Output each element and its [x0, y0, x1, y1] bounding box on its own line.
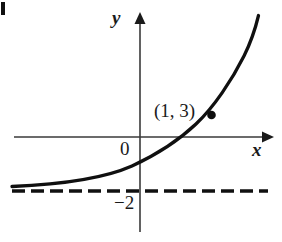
- y-axis-label: y: [112, 8, 120, 27]
- x-axis-label: x: [252, 140, 262, 159]
- asymptote-value-label: −2: [114, 193, 134, 212]
- x-axis-arrowhead: [262, 132, 274, 143]
- exponential-function-graph: y x 0 −2 (1, 3): [0, 0, 282, 242]
- exponential-curve: [12, 16, 259, 187]
- plot-canvas: [0, 0, 282, 242]
- point-coordinate-label: (1, 3): [154, 101, 195, 120]
- point-marker-1-3: [207, 111, 216, 120]
- origin-label: 0: [120, 139, 130, 158]
- y-axis-arrowhead: [135, 12, 146, 24]
